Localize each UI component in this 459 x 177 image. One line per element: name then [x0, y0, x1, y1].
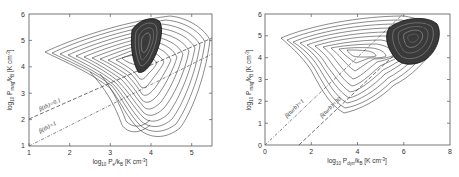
beta-turb-30-label: β(turb)=30	[318, 96, 343, 121]
svg-text:0: 0	[263, 148, 267, 155]
svg-text:0: 0	[258, 142, 262, 149]
svg-text:2: 2	[258, 98, 262, 105]
svg-text:1: 1	[27, 149, 31, 156]
svg-text:4: 4	[356, 148, 360, 155]
svg-text:4: 4	[149, 149, 153, 156]
svg-text:8: 8	[448, 148, 452, 155]
left-contours	[45, 16, 210, 137]
svg-text:2: 2	[309, 148, 313, 155]
svg-text:2: 2	[21, 116, 25, 123]
svg-text:3: 3	[258, 76, 262, 83]
right-x-axis-label: log10 Pdyn/kB [K cm-3]	[327, 157, 387, 166]
svg-text:2: 2	[68, 149, 72, 156]
svg-text:1: 1	[21, 142, 25, 149]
svg-text:3: 3	[108, 149, 112, 156]
right-x-tick-labels: 0 2 4 6 8	[263, 148, 452, 155]
right-y-axis-label: log10 Pmag/kB [K cm-3]	[245, 49, 254, 110]
left-axes-frame	[29, 14, 212, 146]
svg-text:1: 1	[258, 120, 262, 127]
right-plot-svg: β(turb)=1 β(turb)=30 0 2 4 6 8 0 1	[229, 0, 459, 177]
svg-text:6: 6	[258, 11, 262, 18]
left-plot-svg: β(th)=0.1 β(th)=1 1 2 3 4 5 1 2	[0, 0, 229, 177]
left-dense-region	[131, 19, 161, 73]
left-x-axis-label: log10 Pe/kB [K cm-3]	[93, 158, 148, 167]
svg-text:3: 3	[21, 90, 25, 97]
svg-text:6: 6	[21, 11, 25, 18]
left-y-tick-labels: 1 2 3 4 5 6	[21, 11, 25, 150]
left-contour-plot: β(th)=0.1 β(th)=1 1 2 3 4 5 1 2	[0, 0, 229, 177]
left-y-axis-label: log10 Pmag/kB [K cm-3]	[6, 49, 15, 110]
svg-text:4: 4	[258, 54, 262, 61]
svg-text:5: 5	[190, 149, 194, 156]
right-y-tick-labels: 0 1 2 3 4 5 6	[258, 11, 262, 149]
svg-text:5: 5	[21, 37, 25, 44]
right-dense-region	[387, 18, 440, 64]
svg-text:6: 6	[402, 148, 406, 155]
svg-text:4: 4	[21, 63, 25, 70]
beta-turb-1-label: β(turb)=1	[283, 98, 306, 120]
left-x-tick-labels: 1 2 3 4 5	[27, 149, 194, 156]
right-contour-plot: β(turb)=1 β(turb)=30 0 2 4 6 8 0 1	[229, 0, 459, 177]
svg-text:5: 5	[258, 32, 262, 39]
beta-th-0.1-label: β(th)=0.1	[37, 97, 62, 113]
